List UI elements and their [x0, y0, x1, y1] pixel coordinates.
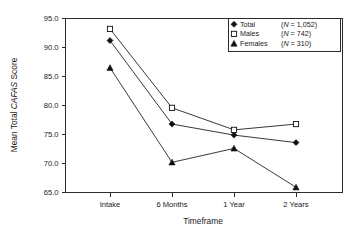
legend-n-total: (N = 1,052)	[281, 20, 317, 29]
data-point-females-2	[231, 145, 237, 151]
series-line-total	[110, 41, 296, 143]
data-point-total-3	[293, 140, 299, 146]
chart-legend: Total(N = 1,052)Males(N = 742)Females(N …	[229, 19, 341, 52]
data-point-males-3	[293, 121, 298, 126]
series-line-females	[110, 68, 296, 187]
y-tick-label: 70.0	[44, 159, 59, 168]
y-tick-label: 85.0	[44, 72, 59, 81]
y-tick-label: 95.0	[44, 14, 59, 23]
x-axis-ticks: Intake6 Months1 Year2 Years	[100, 193, 309, 209]
data-point-males-0	[107, 26, 112, 31]
x-tick-label: 1 Year	[223, 200, 245, 209]
legend-label-females: Females	[240, 39, 268, 48]
legend-marker-males	[231, 31, 236, 36]
y-axis-title: Mean Total CAFAS Score	[9, 57, 19, 152]
data-point-total-2	[231, 132, 237, 138]
series-females	[107, 65, 299, 190]
y-tick-label: 80.0	[44, 101, 59, 110]
data-point-males-1	[169, 105, 174, 110]
x-tick-label: Intake	[100, 200, 121, 209]
y-tick-label: 65.0	[44, 188, 59, 197]
legend-n-females: (N = 310)	[281, 39, 311, 48]
x-tick-label: 6 Months	[156, 200, 187, 209]
legend-label-males: Males	[240, 29, 260, 38]
data-point-females-0	[107, 65, 113, 71]
line-chart: 65.070.075.080.085.090.095.0 Intake6 Mon…	[0, 0, 346, 231]
data-point-males-2	[231, 127, 236, 132]
figure-container: 65.070.075.080.085.090.095.0 Intake6 Mon…	[0, 0, 346, 231]
x-axis-title: Timeframe	[183, 216, 223, 226]
y-tick-label: 90.0	[44, 43, 59, 52]
legend-n-males: (N = 742)	[281, 29, 311, 38]
x-tick-label: 2 Years	[283, 200, 309, 209]
legend-label-total: Total	[240, 20, 256, 29]
data-point-females-3	[293, 184, 299, 190]
y-tick-label: 75.0	[44, 130, 59, 139]
series-total	[107, 38, 299, 146]
y-axis-ticks: 65.070.075.080.085.090.095.0	[44, 14, 66, 197]
